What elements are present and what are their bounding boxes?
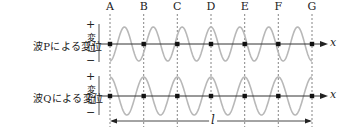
plus-sign-p: +	[86, 19, 95, 30]
point-label-c: C	[173, 0, 181, 13]
dot-p-e	[243, 42, 247, 46]
dot-q-c	[175, 94, 179, 98]
plus-sign-q: +	[86, 71, 95, 82]
x-axis-label-q: x	[330, 88, 336, 101]
dot-p-a	[108, 42, 112, 46]
dot-p-c	[175, 42, 179, 46]
x-axis-label-p: x	[330, 36, 336, 49]
length-label: l	[209, 113, 217, 127]
point-label-f: F	[274, 0, 282, 13]
dashed-reference-lines	[110, 14, 312, 127]
dot-q-a	[108, 94, 112, 98]
dot-p-d	[209, 42, 213, 46]
minus-sign-p: −	[86, 55, 95, 66]
displacement-axis-label-p: 変位	[86, 33, 96, 53]
displacement-axis-label-q: 変位	[86, 85, 96, 105]
dot-q-d	[209, 94, 213, 98]
dot-q-b	[142, 94, 146, 98]
point-label-b: B	[140, 0, 148, 13]
point-label-e: E	[241, 0, 249, 13]
minus-sign-q: −	[86, 107, 95, 118]
dot-q-f	[276, 94, 280, 98]
length-arrowhead-right	[305, 119, 312, 124]
dot-q-e	[243, 94, 247, 98]
point-label-a: A	[106, 0, 114, 13]
wave-diagram	[0, 0, 339, 128]
x-axis-arrowhead-q	[320, 93, 328, 99]
point-label-d: D	[207, 0, 216, 13]
dot-p-f	[276, 42, 280, 46]
dot-p-b	[142, 42, 146, 46]
point-label-g: G	[308, 0, 317, 13]
x-axis-arrowhead-p	[320, 41, 328, 47]
dot-p-g	[310, 42, 314, 46]
dot-q-g	[310, 94, 314, 98]
length-arrowhead-left	[110, 119, 117, 124]
